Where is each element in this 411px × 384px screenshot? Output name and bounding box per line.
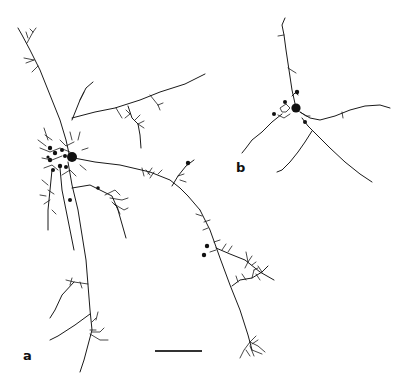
panel-b-tracing xyxy=(242,18,390,182)
scale-bar xyxy=(155,350,202,352)
neuron-tracings xyxy=(0,0,411,384)
panel-label-b: b xyxy=(236,161,245,174)
panel-a-tracing xyxy=(18,28,274,372)
panel-label-a: a xyxy=(23,349,32,362)
figure: a b xyxy=(0,0,411,384)
